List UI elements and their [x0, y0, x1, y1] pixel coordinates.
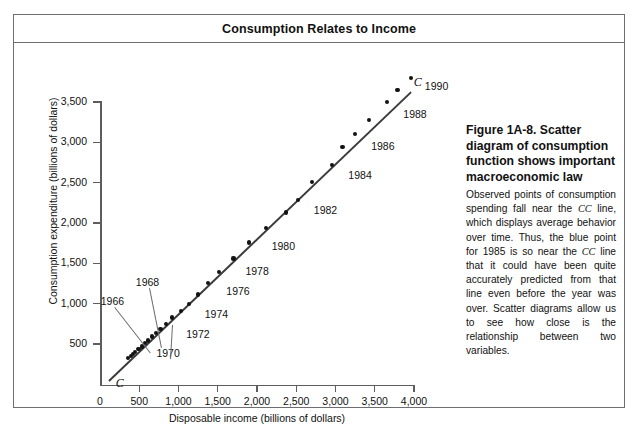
y-tick-mark: [93, 101, 100, 102]
annotation-leader-line: [114, 307, 151, 354]
y-tick-label: 2,500: [41, 176, 87, 188]
y-tick-mark: [93, 142, 100, 143]
data-point: [150, 334, 154, 338]
data-point: [385, 100, 389, 104]
cc-label-end: C: [414, 75, 422, 90]
y-tick-mark: [93, 182, 100, 183]
data-point: [179, 309, 183, 313]
x-axis-title: Disposable income (billions of dollars): [100, 412, 414, 424]
y-axis-line: [100, 101, 102, 386]
data-point: [247, 240, 251, 244]
data-point: [340, 145, 344, 149]
data-point: [284, 210, 288, 214]
data-point: [164, 322, 168, 326]
x-tick-mark: [296, 385, 297, 392]
caption-text-3: line that it could have been quite accur…: [466, 246, 616, 356]
year-annotation-label: 1984: [348, 169, 371, 181]
figure-title: Consumption Relates to Income: [222, 22, 416, 36]
year-annotation-label: 1988: [403, 108, 426, 120]
year-annotation-label: 1974: [205, 308, 228, 320]
y-tick-mark: [93, 263, 100, 264]
y-tick-label: 3,000: [41, 135, 87, 147]
data-point: [187, 302, 191, 306]
caption-cc-1: CC: [578, 203, 592, 214]
y-tick-mark: [93, 343, 100, 344]
caption-body: Observed points of consumption spending …: [466, 188, 616, 358]
x-tick-mark: [217, 385, 218, 392]
data-point: [353, 132, 357, 136]
y-tick-label: 3,500: [41, 95, 87, 107]
year-annotation-label: 1978: [245, 265, 268, 277]
cc-label-start: C: [116, 376, 124, 391]
x-tick-mark: [178, 385, 179, 392]
x-tick-mark: [139, 385, 140, 392]
x-tick-label: 4,000: [384, 395, 444, 407]
y-tick-label: 2,000: [41, 216, 87, 228]
year-annotation-label: 1970: [156, 347, 179, 359]
x-tick-mark: [413, 385, 414, 392]
figure-caption: Figure 1A-8. Scatter diagram of consumpt…: [466, 123, 616, 358]
caption-cc-2: CC: [582, 246, 596, 257]
data-point: [196, 292, 200, 296]
y-tick-label: 1,000: [41, 297, 87, 309]
data-point: [395, 88, 399, 92]
caption-heading: Figure 1A-8. Scatter diagram of consumpt…: [466, 123, 616, 185]
y-tick-label: 500: [41, 337, 87, 349]
year-annotation-label: 1980: [272, 240, 295, 252]
year-annotation-label: 1972: [186, 328, 209, 340]
figure-frame: Consumption Relates to Income Consumptio…: [13, 14, 625, 408]
data-point: [158, 327, 162, 331]
year-annotation-label: 1986: [371, 140, 394, 152]
year-annotation-label: 1982: [314, 204, 337, 216]
year-annotation-label: 1968: [136, 276, 159, 288]
scatter-plot: Consumption expenditure (billions of dol…: [14, 43, 444, 407]
year-annotation-label: 1976: [226, 285, 249, 297]
data-point: [296, 198, 300, 202]
figure-title-bar: Consumption Relates to Income: [14, 15, 624, 43]
x-tick-mark: [335, 385, 336, 392]
year-annotation-label: 1990: [425, 80, 448, 92]
data-point: [146, 338, 150, 342]
data-point: [367, 118, 371, 122]
y-tick-label: 1,500: [41, 256, 87, 268]
data-point: [409, 76, 413, 80]
data-point: [310, 180, 314, 184]
x-tick-mark: [374, 385, 375, 392]
data-point: [231, 256, 235, 260]
y-tick-mark: [93, 303, 100, 304]
year-annotation-label: 1966: [101, 295, 124, 307]
data-point: [170, 315, 174, 319]
y-tick-mark: [93, 222, 100, 223]
data-point: [264, 226, 268, 230]
x-tick-mark: [256, 385, 257, 392]
